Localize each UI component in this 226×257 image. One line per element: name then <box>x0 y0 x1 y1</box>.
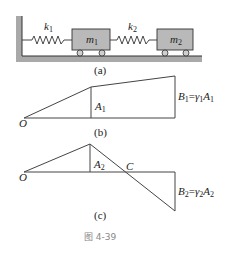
wheel <box>183 50 189 56</box>
b2-equation: B2=γ2A2 <box>178 185 214 199</box>
figure-caption: 图 4-39 <box>84 232 117 242</box>
panel-a-label: (a) <box>94 64 107 77</box>
panel-b-label: (b) <box>94 126 107 139</box>
wall <box>16 16 22 62</box>
spring-k1-label: k1 <box>44 20 53 34</box>
floor <box>16 56 202 62</box>
amplitude-a2-label: A2 <box>93 158 105 172</box>
wheel <box>77 50 83 56</box>
panel-c: O A2 C B2=γ2A2 (c) <box>19 144 214 222</box>
wheel <box>99 50 105 56</box>
node-c-label: C <box>126 160 134 172</box>
panel-a: k1 m1 k2 m2 (a) <box>16 16 202 77</box>
figure-4-39: k1 m1 k2 m2 (a) O A1 B1=γ1A1 (b) O A2 C … <box>0 0 226 257</box>
amplitude-a1-label: A1 <box>94 100 106 114</box>
spring-k2-label: k2 <box>128 20 137 34</box>
origin-label: O <box>19 117 27 129</box>
panel-c-label: (c) <box>94 209 107 222</box>
panel-b: O A1 B1=γ1A1 (b) <box>19 76 214 139</box>
spring-k2 <box>110 36 157 44</box>
mode-shape-2 <box>24 144 175 211</box>
wheel <box>162 50 168 56</box>
spring-k1 <box>22 36 72 44</box>
origin-label: O <box>19 171 27 183</box>
b1-equation: B1=γ1A1 <box>178 90 214 104</box>
